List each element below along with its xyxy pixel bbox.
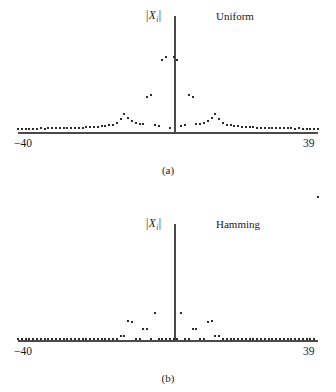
plot-area-hamming bbox=[0, 196, 336, 356]
data-point bbox=[93, 126, 95, 128]
data-point bbox=[127, 320, 129, 322]
caption-b: (b) bbox=[0, 372, 336, 384]
data-point bbox=[161, 59, 163, 61]
x-tick-left-hamming: −40 bbox=[14, 345, 32, 357]
data-point bbox=[317, 196, 319, 198]
data-point bbox=[222, 122, 224, 124]
data-point bbox=[218, 118, 220, 120]
data-point bbox=[104, 125, 106, 127]
data-point bbox=[142, 123, 144, 125]
data-point bbox=[226, 124, 228, 126]
data-point bbox=[268, 338, 270, 340]
data-point bbox=[116, 338, 118, 340]
data-point bbox=[104, 338, 106, 340]
data-point bbox=[150, 338, 152, 340]
data-point bbox=[290, 338, 292, 340]
data-point bbox=[85, 338, 87, 340]
data-point bbox=[165, 338, 167, 340]
data-point bbox=[25, 128, 27, 130]
data-point bbox=[89, 126, 91, 128]
data-point bbox=[294, 338, 296, 340]
data-point bbox=[139, 338, 141, 340]
y-label-close-bar: | bbox=[159, 217, 162, 229]
data-point bbox=[74, 127, 76, 129]
data-point bbox=[101, 338, 103, 340]
data-point bbox=[161, 338, 163, 340]
data-point bbox=[74, 338, 76, 340]
data-point bbox=[230, 124, 232, 126]
data-point bbox=[218, 335, 220, 337]
data-point bbox=[40, 127, 42, 129]
data-point bbox=[241, 126, 243, 128]
data-point bbox=[214, 335, 216, 337]
data-point bbox=[32, 338, 34, 340]
data-point bbox=[63, 127, 65, 129]
data-point bbox=[135, 338, 137, 340]
data-point bbox=[226, 338, 228, 340]
data-point bbox=[158, 338, 160, 340]
y-label-close-bar: | bbox=[159, 9, 162, 21]
data-point bbox=[47, 338, 49, 340]
data-point bbox=[252, 338, 254, 340]
data-point bbox=[233, 338, 235, 340]
data-point bbox=[309, 338, 311, 340]
data-point bbox=[237, 125, 239, 127]
data-point bbox=[203, 338, 205, 340]
data-point bbox=[252, 126, 254, 128]
data-point bbox=[63, 338, 65, 340]
data-point bbox=[207, 321, 209, 323]
data-point bbox=[146, 96, 148, 98]
data-point bbox=[169, 338, 171, 340]
data-point bbox=[17, 128, 19, 130]
data-point bbox=[85, 126, 87, 128]
panel-hamming: |Xi| Hamming −40 39 (b) bbox=[0, 196, 336, 392]
data-point bbox=[264, 127, 266, 129]
y-axis-label-uniform: |Xi| bbox=[146, 9, 161, 24]
data-point bbox=[275, 338, 277, 340]
data-point bbox=[120, 118, 122, 120]
data-point bbox=[298, 338, 300, 340]
panel-uniform: |Xi| Uniform −40 39 (a) bbox=[0, 0, 336, 196]
data-point bbox=[309, 128, 311, 130]
data-point bbox=[260, 338, 262, 340]
y-axis-line-uniform bbox=[174, 16, 176, 133]
data-point bbox=[317, 128, 319, 130]
data-point bbox=[25, 338, 27, 340]
data-point bbox=[241, 338, 243, 340]
x-axis-line-uniform bbox=[18, 132, 318, 134]
data-point bbox=[184, 338, 186, 340]
data-point bbox=[184, 124, 186, 126]
y-axis-label-hamming: |Xi| bbox=[146, 217, 161, 232]
plot-area-uniform bbox=[0, 0, 336, 160]
data-point bbox=[279, 127, 281, 129]
data-point bbox=[66, 338, 68, 340]
data-point bbox=[154, 312, 156, 314]
data-point bbox=[59, 127, 61, 129]
x-axis-line-hamming bbox=[18, 340, 318, 342]
data-point bbox=[101, 125, 103, 127]
data-point bbox=[264, 338, 266, 340]
data-point bbox=[78, 338, 80, 340]
data-point bbox=[245, 126, 247, 128]
data-point bbox=[97, 126, 99, 128]
data-point bbox=[169, 127, 171, 129]
data-point bbox=[306, 338, 308, 340]
data-point bbox=[271, 338, 273, 340]
data-point bbox=[120, 335, 122, 337]
data-point bbox=[195, 123, 197, 125]
data-point bbox=[36, 338, 38, 340]
data-point bbox=[89, 338, 91, 340]
data-point bbox=[188, 338, 190, 340]
data-point bbox=[313, 128, 315, 130]
data-point bbox=[165, 56, 167, 58]
data-point bbox=[139, 123, 141, 125]
data-point bbox=[59, 338, 61, 340]
data-point bbox=[294, 128, 296, 130]
data-point bbox=[123, 113, 125, 115]
data-point bbox=[112, 338, 114, 340]
data-point bbox=[214, 113, 216, 115]
data-point bbox=[70, 127, 72, 129]
data-point bbox=[290, 127, 292, 129]
data-point bbox=[298, 127, 300, 129]
data-point bbox=[55, 127, 57, 129]
